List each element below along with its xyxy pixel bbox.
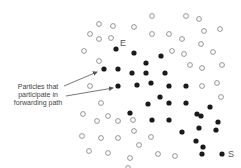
forwarding-particle — [166, 117, 171, 122]
forwarding-particle — [215, 119, 220, 124]
forwarding-particle — [183, 83, 188, 88]
forwarding-particle — [196, 125, 201, 130]
idle-particle — [137, 143, 142, 148]
forwarding-particle — [115, 66, 120, 71]
arrow — [66, 88, 113, 96]
forwarding-particle — [149, 117, 154, 122]
idle-particle — [97, 59, 102, 64]
idle-particle — [188, 63, 193, 68]
forwarding-particle — [145, 101, 150, 106]
idle-particle — [132, 129, 137, 134]
forwarding-particle — [101, 66, 106, 71]
idle-particle — [128, 156, 133, 161]
forwarding-particle — [213, 127, 218, 132]
idle-particle — [116, 119, 121, 124]
forwarding-particle — [183, 100, 188, 105]
idle-particle — [170, 49, 175, 54]
idle-particle — [200, 84, 205, 89]
idle-particle — [173, 154, 178, 159]
forwarding-particle — [193, 138, 198, 143]
idle-particle — [82, 49, 87, 54]
forwarding-particle — [157, 94, 162, 99]
forwarding-particle — [129, 70, 134, 75]
idle-particle — [95, 119, 100, 124]
idle-particle — [215, 81, 220, 86]
forwarding-particle — [148, 80, 153, 85]
forwarding-particle — [198, 113, 203, 118]
idle-particle — [202, 29, 207, 34]
idle-particle — [81, 112, 86, 117]
idle-particle — [111, 24, 116, 29]
annotation-line: participate in — [8, 91, 68, 99]
idle-particle — [220, 63, 225, 68]
idle-particle — [106, 114, 111, 119]
idle-particle — [99, 136, 104, 141]
forwarding-particle — [179, 129, 184, 134]
forwarding-particle — [134, 82, 139, 87]
idle-particle — [218, 27, 223, 32]
end-label: S — [228, 149, 234, 159]
forwarding-particle — [143, 60, 148, 65]
idle-particle — [97, 37, 102, 42]
forwarding-particle — [200, 144, 205, 149]
idle-particle — [184, 14, 189, 19]
idle-particle — [106, 151, 111, 156]
idle-particle — [80, 134, 85, 139]
idle-particle — [199, 42, 204, 47]
idle-particle — [180, 37, 185, 42]
idle-particle — [197, 17, 202, 22]
idle-particle — [88, 32, 93, 37]
forwarding-particle — [166, 100, 171, 105]
idle-particle — [182, 52, 187, 57]
idle-particle — [211, 50, 216, 55]
idle-particle — [126, 166, 131, 168]
forwarding-particle — [113, 46, 118, 51]
idle-particle — [150, 14, 155, 19]
idle-particle — [219, 95, 224, 100]
idle-particle — [167, 32, 172, 37]
forwarding-particle — [115, 83, 120, 88]
idle-particle — [200, 66, 205, 71]
forwarding-particle — [158, 53, 163, 58]
forwarding-particle — [131, 50, 136, 55]
forwarding-particle — [162, 70, 167, 75]
forwarding-particle — [199, 151, 204, 156]
forwarding-particle — [127, 110, 132, 115]
annotation-line: forwarding path — [8, 99, 68, 107]
arrow — [64, 72, 97, 86]
idle-particle — [131, 118, 136, 123]
idle-particle — [150, 32, 155, 37]
annotation-text: Particles that participate in forwarding… — [8, 83, 68, 107]
idle-particle — [99, 101, 104, 106]
forwarding-particle — [143, 70, 148, 75]
forwarding-particle — [219, 151, 224, 156]
idle-particle — [116, 136, 121, 141]
idle-particle — [149, 135, 154, 140]
idle-particle — [88, 84, 93, 89]
idle-particle — [97, 22, 102, 27]
idle-particle — [87, 149, 92, 154]
idle-particle — [156, 152, 161, 157]
annotation-line: Particles that — [8, 83, 68, 91]
start-label: E — [120, 38, 126, 48]
forwarding-particle — [207, 104, 212, 109]
idle-particle — [132, 25, 137, 30]
idle-particle — [109, 36, 114, 41]
forwarding-particle — [166, 83, 171, 88]
